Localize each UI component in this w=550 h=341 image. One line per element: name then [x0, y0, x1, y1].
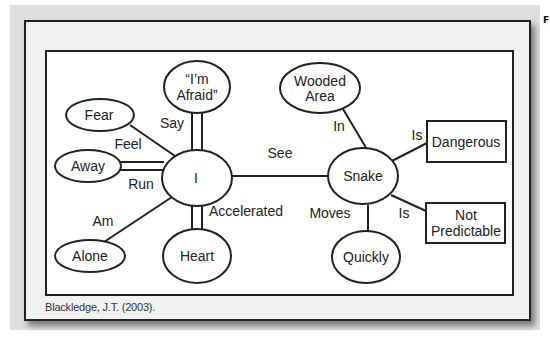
- node-snake-label: Snake: [343, 168, 383, 184]
- edge-label-feel: Feel: [114, 136, 141, 152]
- edge-label-run: Run: [128, 176, 154, 192]
- edge-is-dangerous: [390, 143, 427, 162]
- node-fear-label: Fear: [85, 107, 114, 123]
- concept-map: “I’m Afraid” Fear Away I Alone Heart Woo…: [0, 0, 550, 341]
- edge-in: [343, 109, 368, 151]
- node-i-label: I: [194, 170, 198, 186]
- node-wooded-label-2: Area: [305, 88, 335, 104]
- node-afraid-label-1: “I’m: [185, 71, 208, 87]
- node-alone-label: Alone: [72, 248, 108, 264]
- edge-label-see: See: [268, 145, 293, 161]
- node-away-label: Away: [71, 158, 105, 174]
- node-heart-label: Heart: [180, 248, 214, 264]
- edge-label-is-not-predictable: Is: [399, 205, 410, 221]
- edge-label-is-dangerous: Is: [412, 127, 423, 143]
- node-wooded-label-1: Wooded: [294, 73, 346, 89]
- edge-am: [104, 197, 172, 242]
- edge-label-accelerated: Accelerated: [209, 203, 283, 219]
- edge-label-am: Am: [93, 213, 114, 229]
- node-afraid-label-2: Afraid”: [176, 87, 218, 103]
- figure-citation: Blackledge, J.T. (2003).: [45, 301, 155, 313]
- edge-figure-marker: F: [543, 15, 549, 25]
- node-not-predictable-label-1: Not: [455, 207, 477, 223]
- node-quickly-label: Quickly: [343, 249, 389, 265]
- node-dangerous-label: Dangerous: [432, 134, 501, 150]
- edge-label-say: Say: [160, 115, 184, 131]
- node-not-predictable-label-2: Predictable: [431, 223, 501, 239]
- edge-label-in: In: [333, 118, 345, 134]
- edge-label-moves: Moves: [309, 205, 350, 221]
